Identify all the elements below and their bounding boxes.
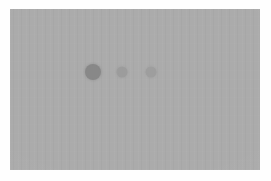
dot-3[interactable] — [146, 67, 157, 78]
blank-gray-panel — [10, 9, 260, 170]
dot-2[interactable] — [117, 67, 128, 78]
dot-1[interactable] — [85, 64, 101, 80]
panel-vignette-overlay — [10, 9, 260, 170]
panel-texture-overlay — [10, 9, 260, 170]
screen-root — [0, 0, 271, 181]
three-dot-indicator — [10, 9, 260, 170]
